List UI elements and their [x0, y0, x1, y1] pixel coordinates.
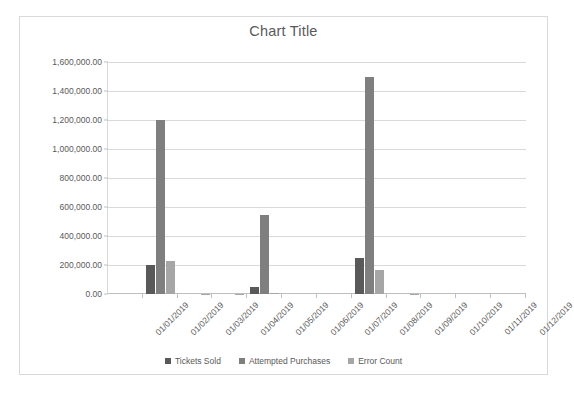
y-tick-label: 400,000.00 — [59, 231, 102, 241]
bar-group[interactable] — [282, 62, 317, 294]
chart-container[interactable]: Chart Title 0.00200,000.00400,000.00600,… — [19, 16, 548, 375]
x-tick-mark — [246, 294, 247, 298]
legend-item-0[interactable]: Tickets Sold — [165, 356, 221, 366]
legend-swatch-icon — [239, 358, 245, 364]
bar-group-bars — [317, 62, 352, 294]
bar-group[interactable] — [352, 62, 387, 294]
bar-1[interactable] — [156, 120, 165, 294]
x-tick-label: 01/12/2019 — [537, 300, 574, 337]
x-tick-label: 01/07/2019 — [363, 300, 400, 337]
y-tick-label: 200,000.00 — [59, 260, 102, 270]
bar-group[interactable] — [143, 62, 178, 294]
x-tick-label: 01/01/2019 — [154, 300, 191, 337]
legend-label: Tickets Sold — [175, 356, 221, 366]
x-tick-mark — [490, 294, 491, 298]
x-tick-label: 01/11/2019 — [502, 300, 539, 337]
x-tick-mark — [525, 294, 526, 298]
plot-area: 0.00200,000.00400,000.00600,000.00800,00… — [108, 62, 526, 294]
bar-group-bars — [352, 62, 387, 294]
bar-group-bars — [247, 62, 282, 294]
x-tick-mark — [177, 294, 178, 298]
bar-1[interactable] — [260, 215, 269, 294]
x-tick-label: 01/02/2019 — [189, 300, 226, 337]
bar-group[interactable] — [421, 62, 456, 294]
x-tick-mark — [281, 294, 282, 298]
bar-0[interactable] — [355, 258, 364, 294]
chart-title[interactable]: Chart Title — [20, 23, 547, 39]
bar-group[interactable] — [247, 62, 282, 294]
bar-0[interactable] — [250, 287, 259, 294]
x-tick-mark — [316, 294, 317, 298]
x-tick-mark — [420, 294, 421, 298]
bar-group-bars — [491, 62, 526, 294]
legend-item-2[interactable]: Error Count — [348, 356, 402, 366]
bar-groups — [108, 62, 526, 294]
bar-group-bars — [143, 62, 178, 294]
y-tick-label: 1,000,000.00 — [52, 144, 102, 154]
bar-group[interactable] — [387, 62, 422, 294]
x-tick-label: 01/10/2019 — [467, 300, 504, 337]
bar-group[interactable] — [212, 62, 247, 294]
y-tick-label: 800,000.00 — [59, 173, 102, 183]
y-tick-label: 0.00 — [85, 289, 102, 299]
x-tick-label: 01/04/2019 — [258, 300, 295, 337]
y-tick-label: 1,200,000.00 — [52, 115, 102, 125]
chart-legend[interactable]: Tickets SoldAttempted PurchasesError Cou… — [20, 356, 547, 366]
bar-2[interactable] — [375, 270, 384, 294]
legend-item-1[interactable]: Attempted Purchases — [239, 356, 330, 366]
bar-group-bars — [212, 62, 247, 294]
bar-group[interactable] — [456, 62, 491, 294]
x-tick-mark — [386, 294, 387, 298]
x-tick-label: 01/03/2019 — [224, 300, 261, 337]
bar-group-bars — [456, 62, 491, 294]
bar-group-bars — [421, 62, 456, 294]
bar-group[interactable] — [108, 62, 143, 294]
y-tick-label: 1,600,000.00 — [52, 57, 102, 67]
bar-group[interactable] — [317, 62, 352, 294]
x-tick-label: 01/06/2019 — [328, 300, 365, 337]
bar-group-bars — [178, 62, 213, 294]
legend-swatch-icon — [165, 358, 171, 364]
x-tick-label: 01/09/2019 — [433, 300, 470, 337]
legend-label: Error Count — [358, 356, 402, 366]
bar-2[interactable] — [166, 261, 175, 294]
x-tick-mark — [211, 294, 212, 298]
x-tick-label: 01/05/2019 — [293, 300, 330, 337]
bar-2[interactable] — [270, 293, 279, 294]
y-tick-label: 600,000.00 — [59, 202, 102, 212]
bar-0[interactable] — [146, 265, 155, 294]
legend-label: Attempted Purchases — [249, 356, 330, 366]
bar-1[interactable] — [365, 77, 374, 295]
bar-group[interactable] — [491, 62, 526, 294]
y-tick-label: 1,400,000.00 — [52, 86, 102, 96]
bar-group-bars — [387, 62, 422, 294]
bar-group-bars — [108, 62, 143, 294]
bar-group[interactable] — [178, 62, 213, 294]
x-tick-label: 01/08/2019 — [398, 300, 435, 337]
bar-group-bars — [282, 62, 317, 294]
x-tick-mark — [351, 294, 352, 298]
legend-swatch-icon — [348, 358, 354, 364]
x-tick-mark — [142, 294, 143, 298]
x-tick-mark — [455, 294, 456, 298]
